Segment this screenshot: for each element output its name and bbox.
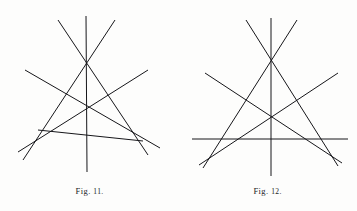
figure-11-drawing — [0, 0, 179, 182]
figure-11-line-side-left-long — [58, 20, 148, 155]
page-canvas: Fig. 11. Fig. 12. — [0, 0, 357, 211]
figure-11-line-cevian-vertical — [86, 16, 87, 172]
figure-11: Fig. 11. — [0, 0, 179, 211]
figure-11-caption-word: Fig. — [76, 186, 91, 196]
figure-12-line-median-left-to-right — [205, 73, 342, 163]
figure-12-caption-number: 12. — [271, 187, 281, 196]
figure-12: Fig. 12. — [178, 0, 357, 211]
figure-11-caption: Fig. 11. — [0, 186, 179, 196]
figure-12-drawing — [178, 0, 357, 182]
figure-11-caption-number: 11. — [93, 187, 103, 196]
figure-12-caption-word: Fig. — [253, 186, 268, 196]
figure-11-line-transversal-left-to-right — [25, 70, 160, 148]
figure-11-line-base-oblique — [38, 130, 143, 141]
figure-12-caption: Fig. 12. — [178, 186, 357, 196]
figure-12-line-side-left — [246, 20, 338, 166]
figure-12-line-median-right-to-left — [199, 73, 338, 165]
figure-11-line-side-right-long — [23, 20, 115, 160]
figure-12-line-side-right — [203, 20, 297, 168]
